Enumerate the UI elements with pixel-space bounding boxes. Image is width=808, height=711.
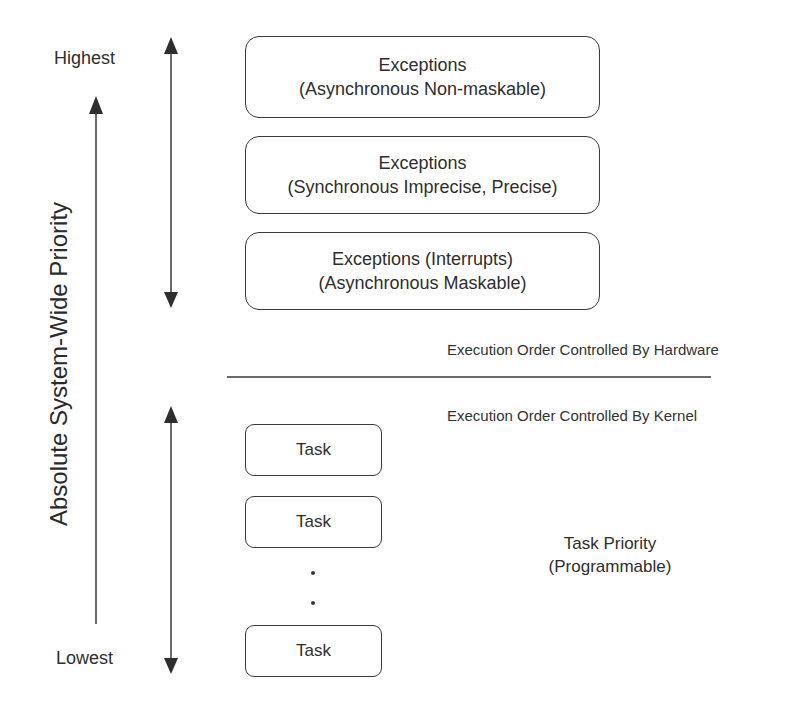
task-box: Task <box>245 625 382 677</box>
lowest-label: Lowest <box>56 648 113 669</box>
task-label: Task <box>296 438 331 462</box>
task-label: Task <box>296 639 331 663</box>
box-subtitle: (Asynchronous Non-maskable) <box>299 77 546 101</box>
task-priority-subtitle: (Programmable) <box>520 555 700 578</box>
axis-title: Absolute System-Wide Priority <box>45 202 73 526</box>
box-title: Exceptions <box>378 151 466 175</box>
box-title: Exceptions <box>378 53 466 77</box>
box-title: Exceptions (Interrupts) <box>332 247 513 271</box>
system-priority-arrow <box>89 96 103 624</box>
kernel-range-double-arrow <box>164 406 178 674</box>
box-subtitle: (Synchronous Imprecise, Precise) <box>287 175 557 199</box>
ellipsis-dot <box>311 601 315 605</box>
exception-box-sync-imprecise-precise: Exceptions (Synchronous Imprecise, Preci… <box>245 136 600 214</box>
highest-label: Highest <box>54 48 115 69</box>
box-subtitle: (Asynchronous Maskable) <box>318 271 526 295</box>
task-box: Task <box>245 424 382 476</box>
exception-box-async-maskable: Exceptions (Interrupts) (Asynchronous Ma… <box>245 232 600 310</box>
exception-box-async-nonmaskable: Exceptions (Asynchronous Non-maskable) <box>245 36 600 118</box>
ellipsis-dot <box>311 571 315 575</box>
kernel-caption: Execution Order Controlled By Kernel <box>447 407 697 424</box>
hardware-range-double-arrow <box>164 37 178 308</box>
task-label: Task <box>296 510 331 534</box>
task-priority-title: Task Priority <box>520 532 700 555</box>
task-box: Task <box>245 496 382 548</box>
hardware-caption: Execution Order Controlled By Hardware <box>447 341 719 358</box>
task-priority-label: Task Priority (Programmable) <box>520 532 700 578</box>
